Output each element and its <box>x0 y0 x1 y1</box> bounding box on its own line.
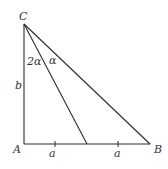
vertex-label-c: C <box>19 10 28 23</box>
vertex-label-a: A <box>12 143 21 156</box>
side-label-a-left: a <box>49 147 56 160</box>
triangle-diagram: C A B 2α α b a a <box>0 0 168 169</box>
vertex-label-b: B <box>153 143 162 156</box>
side-cb <box>24 24 150 144</box>
angle-label-alpha: α <box>49 54 57 67</box>
angle-label-2alpha: 2α <box>26 55 42 68</box>
side-label-a-right: a <box>114 147 121 160</box>
cevian-cd <box>24 24 87 144</box>
side-label-b: b <box>15 79 22 92</box>
